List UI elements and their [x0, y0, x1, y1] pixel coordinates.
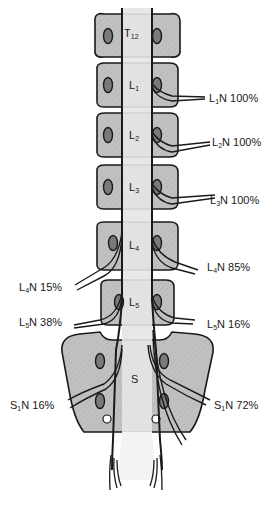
vertebra-letter: S — [131, 373, 138, 385]
nerve-label-s1-right: S1N 72% — [214, 400, 258, 412]
nerve-suffix: N — [21, 399, 29, 411]
nerve-percent: 85% — [228, 261, 250, 273]
nerve-percent: 16% — [32, 399, 54, 411]
nerve-percent: 100% — [231, 194, 259, 206]
nerve-suffix: N — [217, 318, 225, 330]
nerve-label-l5-right: L5N 16% — [207, 319, 250, 331]
nerve-suffix: N — [29, 281, 37, 293]
vertebra-subscript: 12 — [131, 33, 139, 40]
nerve-label-s1-left: S1N 16% — [10, 400, 54, 412]
nerve-label-l2-right: L2N 100% — [212, 137, 261, 149]
vertebra-subscript: 4 — [135, 245, 139, 252]
vertebra-label-l5: L5 — [129, 297, 139, 309]
nerve-suffix: N — [219, 92, 227, 104]
vertebra-subscript: 1 — [135, 85, 139, 92]
nerve-label-l4-right: L4N 85% — [207, 262, 250, 274]
nerve-suffix: N — [29, 316, 37, 328]
vertebra-label-t12: T12 — [124, 28, 139, 40]
vertebra-label-l2: L2 — [129, 130, 139, 142]
nerve-percent: 38% — [40, 316, 62, 328]
nerve-suffix: N — [225, 399, 233, 411]
vertebra-subscript: 5 — [135, 302, 139, 309]
nerve-percent: 100% — [233, 136, 261, 148]
nerve-percent: 100% — [230, 92, 258, 104]
vertebra-label-l4: L4 — [129, 240, 139, 252]
nerve-percent: 15% — [40, 281, 62, 293]
nerve-label-l3-right: L3N 100% — [210, 195, 259, 207]
nerve-suffix: N — [222, 136, 230, 148]
nerve-suffix: N — [217, 261, 225, 273]
vertebra-subscript: 2 — [135, 135, 139, 142]
vertebra-label-s: S — [131, 374, 138, 385]
spine-diagram — [0, 0, 275, 506]
nerve-suffix: N — [220, 194, 228, 206]
nerve-percent: 72% — [236, 399, 258, 411]
nerve-label-l5-left: L5N 38% — [19, 317, 62, 329]
vertebra-label-l3: L3 — [129, 182, 139, 194]
nerve-label-l4-left: L4N 15% — [19, 282, 62, 294]
vertebra-letter: T — [124, 27, 131, 39]
nerve-percent: 16% — [228, 318, 250, 330]
vertebra-label-l1: L1 — [129, 80, 139, 92]
vertebra-subscript: 3 — [135, 187, 139, 194]
nerve-label-l1-right: L1N 100% — [209, 93, 258, 105]
